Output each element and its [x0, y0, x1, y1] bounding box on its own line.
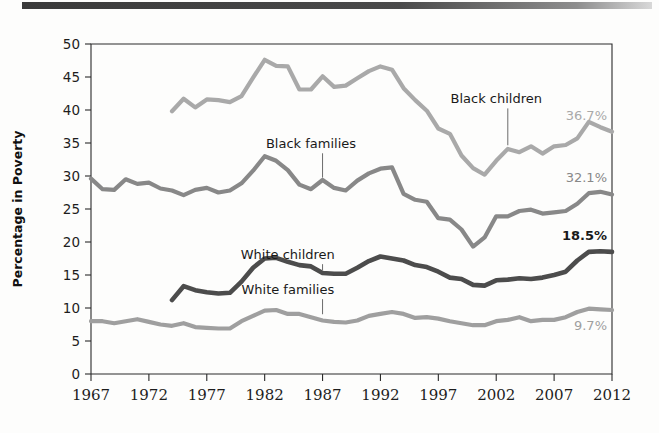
- end-value-white-families: 9.7%: [574, 318, 607, 333]
- y-tick-label: 45: [63, 69, 80, 85]
- y-axis-title: Percentage in Poverty: [10, 131, 25, 288]
- y-tick-label: 25: [63, 201, 80, 217]
- line-chart: 0510152025303540455019671972197719821987…: [0, 0, 659, 433]
- x-tick-label: 1982: [246, 386, 284, 404]
- x-tick-label: 1992: [361, 386, 399, 404]
- end-value-white-children: 18.5%: [562, 228, 607, 243]
- y-tick-label: 35: [63, 135, 80, 151]
- series-line-white-children: [172, 251, 612, 300]
- y-tick-label: 0: [71, 366, 80, 382]
- series-line-black-families: [91, 156, 612, 246]
- y-tick-label: 10: [63, 300, 80, 316]
- series-label-black-families: Black families: [266, 136, 356, 151]
- end-value-black-families: 32.1%: [566, 170, 607, 185]
- x-tick-label: 2002: [477, 386, 515, 404]
- x-tick-label: 1997: [419, 386, 457, 404]
- figure-container: 0510152025303540455019671972197719821987…: [0, 0, 659, 433]
- end-value-black-children: 36.7%: [566, 108, 607, 123]
- x-tick-label: 1972: [130, 386, 168, 404]
- x-tick-label: 1967: [72, 386, 110, 404]
- y-tick-label: 40: [63, 102, 80, 118]
- series-line-black-children: [172, 60, 612, 175]
- series-label-black-children: Black children: [450, 91, 541, 106]
- series-line-white-families: [91, 309, 612, 329]
- series-label-white-families: White families: [241, 282, 334, 297]
- y-tick-label: 5: [71, 333, 80, 349]
- y-tick-label: 30: [63, 168, 80, 184]
- x-tick-label: 2012: [593, 386, 631, 404]
- y-tick-label: 50: [63, 36, 80, 52]
- series-label-white-children: White children: [241, 247, 335, 262]
- y-tick-label: 20: [63, 234, 80, 250]
- x-tick-label: 1987: [303, 386, 341, 404]
- x-tick-label: 2007: [535, 386, 573, 404]
- y-tick-label: 15: [63, 267, 80, 283]
- chart-svg: 0510152025303540455019671972197719821987…: [0, 0, 659, 433]
- x-tick-label: 1977: [188, 386, 226, 404]
